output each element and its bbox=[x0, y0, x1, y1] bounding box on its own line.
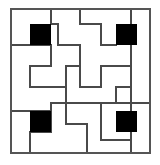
filled-cell-top-right bbox=[116, 24, 137, 45]
filled-cell-bottom-right bbox=[116, 111, 137, 132]
filled-cell-bottom-left bbox=[30, 111, 51, 132]
filled-cell-top-left bbox=[30, 24, 51, 45]
maze-diagram bbox=[0, 0, 160, 165]
maze-figure bbox=[0, 0, 160, 165]
